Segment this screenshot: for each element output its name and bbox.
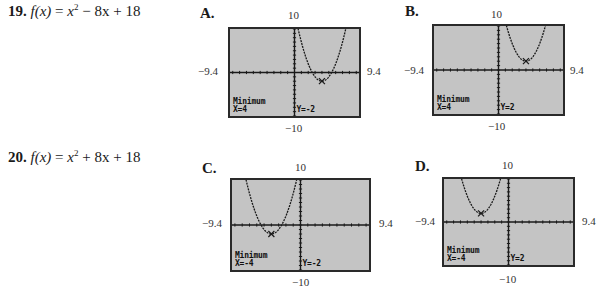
expr-var: x xyxy=(67,149,74,165)
x-readout: X=4 xyxy=(437,104,451,112)
expr-rest: − 8x + 18 xyxy=(78,3,140,19)
ymax-label: 10 xyxy=(295,161,306,173)
calculator-screen-a: Minimum X=4 Y=-2 xyxy=(228,27,361,118)
problem-20: 20. f(x) = x2 + 8x + 18 xyxy=(8,148,140,166)
function-name: f(x) xyxy=(31,149,52,165)
ymax-label: 10 xyxy=(502,159,513,171)
ymax-label: 10 xyxy=(491,8,502,20)
ymin-label: −10 xyxy=(499,273,516,285)
y-readout: Y=-2 xyxy=(303,260,321,268)
ymin-label: −10 xyxy=(285,122,302,134)
ymin-label: −10 xyxy=(292,276,309,288)
x-readout: X=4 xyxy=(233,106,247,114)
y-readout: Y=2 xyxy=(511,255,525,263)
calculator-screen-d: Minimum X=-4 Y=2 xyxy=(442,177,575,267)
expr-var: x xyxy=(67,3,74,19)
ymin-label: −10 xyxy=(488,120,505,132)
choice-a-letter: A. xyxy=(200,5,215,22)
x-readout: X=-4 xyxy=(235,260,253,268)
expr-rest: + 8x + 18 xyxy=(78,149,140,165)
xmin-label: −9.4 xyxy=(198,65,218,77)
choice-b-letter: B. xyxy=(405,3,419,20)
problem-number: 20. xyxy=(8,149,27,165)
xmin-label: −9.4 xyxy=(415,215,435,227)
calculator-screen-c: Minimum X=-4 Y=-2 xyxy=(230,178,371,272)
y-readout: Y=2 xyxy=(501,104,515,112)
choice-c-letter: C. xyxy=(202,160,217,177)
ymax-label: 10 xyxy=(288,9,299,21)
xmax-label: 9.4 xyxy=(379,217,393,229)
calculator-screen-b: Minimum X=4 Y=2 xyxy=(432,24,565,116)
problem-number: 19. xyxy=(8,3,27,19)
xmax-label: 9.4 xyxy=(367,65,381,77)
x-readout: X=-4 xyxy=(447,255,465,263)
y-readout: Y=-2 xyxy=(297,106,315,114)
equals-sign: = xyxy=(55,149,67,165)
xmin-label: −9.4 xyxy=(202,217,222,229)
xmax-label: 9.4 xyxy=(582,215,596,227)
xmax-label: 9.4 xyxy=(570,64,584,76)
xmin-label: −9.4 xyxy=(404,64,424,76)
function-name: f(x) xyxy=(31,3,52,19)
equals-sign: = xyxy=(55,3,67,19)
choice-d-letter: D. xyxy=(415,158,430,175)
problem-19: 19. f(x) = x2 − 8x + 18 xyxy=(8,2,140,20)
